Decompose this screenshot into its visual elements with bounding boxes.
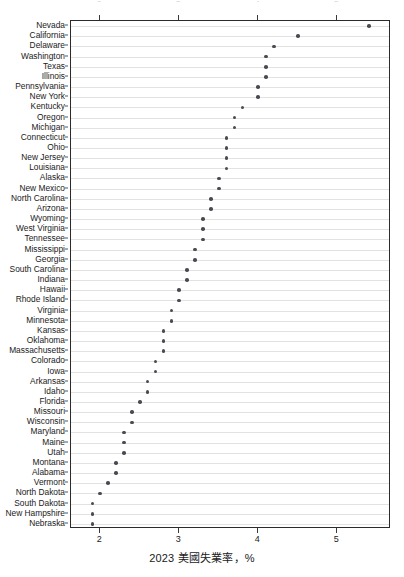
y-axis-label-iowa: Iowa [47, 366, 65, 375]
x-axis-tick [336, 528, 337, 533]
gridline [71, 128, 389, 129]
y-axis-label-idaho: Idaho [44, 386, 65, 395]
y-axis-label-north-dakota: North Dakota [16, 488, 65, 497]
y-axis-label-delaware: Delaware [30, 41, 65, 50]
data-point [177, 299, 181, 303]
y-axis-label-alabama: Alabama [32, 468, 65, 477]
data-point [193, 258, 197, 262]
x-axis-tick [178, 528, 179, 533]
y-axis-label-california: California [30, 31, 65, 40]
gridline [71, 260, 389, 261]
gridline [71, 341, 389, 342]
x-axis-tick [257, 528, 258, 533]
gridline [71, 392, 389, 393]
y-axis-label-new-jersey: New Jersey [21, 153, 65, 162]
data-point [193, 248, 197, 252]
y-axis-tick [65, 147, 68, 148]
y-axis-tick [65, 401, 68, 402]
data-point [146, 390, 150, 394]
gridline [71, 351, 389, 352]
y-axis-label-montana: Montana [32, 457, 65, 466]
gridline [71, 331, 389, 332]
y-axis-label-tennessee: Tennessee [24, 234, 65, 243]
gridline [71, 77, 389, 78]
data-point [146, 380, 150, 384]
y-axis-label-rhode-island: Rhode Island [16, 295, 65, 304]
data-point [272, 45, 276, 49]
data-point [201, 217, 205, 221]
y-axis-tick [65, 157, 68, 158]
data-point [91, 502, 95, 506]
data-point [264, 75, 268, 79]
x-axis-tick-label: 2 [97, 534, 102, 544]
gridline [71, 199, 389, 200]
gridline [71, 178, 389, 179]
y-axis-tick [65, 522, 68, 523]
data-point [122, 441, 126, 445]
y-axis-tick [65, 492, 68, 493]
gridline [71, 524, 389, 525]
data-point [209, 197, 213, 201]
y-axis-label-colorado: Colorado [31, 356, 65, 365]
data-point [367, 24, 371, 28]
y-axis-tick [65, 35, 68, 36]
y-axis-label-nevada: Nevada [36, 21, 65, 30]
y-axis-label-hawaii: Hawaii [40, 285, 65, 294]
y-axis-label-oregon: Oregon [37, 112, 65, 121]
y-axis-label-arizona: Arizona [37, 203, 65, 212]
data-point [130, 410, 134, 414]
gridline [71, 26, 389, 27]
y-axis-tick [65, 228, 68, 229]
y-axis-label-florida: Florida [39, 397, 65, 406]
y-axis-label-indiana: Indiana [38, 275, 65, 284]
gridline [71, 168, 389, 169]
x-axis-tick-label-top-clipped: 5 [334, 0, 339, 2]
gridline [71, 504, 389, 505]
y-axis-label-texas: Texas [43, 61, 65, 70]
y-axis-tick [65, 431, 68, 432]
gridline [71, 311, 389, 312]
gridline [71, 463, 389, 464]
y-axis-tick [65, 65, 68, 66]
data-point [217, 177, 221, 181]
gridline [71, 250, 389, 251]
y-axis-tick [65, 482, 68, 483]
data-point [264, 55, 268, 59]
gridline [71, 229, 389, 230]
data-point [264, 65, 268, 69]
gridline [71, 209, 389, 210]
data-point [296, 34, 300, 38]
y-axis-label-new-hampshire: New Hampshire [5, 508, 65, 517]
data-point [162, 329, 166, 333]
data-point [256, 95, 260, 99]
x-axis-tick-label: 3 [176, 534, 181, 544]
y-axis-tick [65, 329, 68, 330]
y-axis-tick [65, 380, 68, 381]
gridline [71, 422, 389, 423]
gridline [71, 361, 389, 362]
y-axis-label-maine: Maine [42, 437, 65, 446]
y-axis-tick [65, 451, 68, 452]
y-axis-tick [65, 370, 68, 371]
x-axis-tick-label-top-clipped: 2 [97, 0, 102, 2]
y-axis-tick [65, 75, 68, 76]
y-axis-label-nebraska: Nebraska [29, 518, 65, 527]
y-axis-tick [65, 45, 68, 46]
y-axis-label-connecticut: Connecticut [21, 132, 65, 141]
data-point [138, 400, 142, 404]
y-axis-tick [65, 106, 68, 107]
y-axis-tick [65, 207, 68, 208]
gridline [71, 239, 389, 240]
data-point [114, 461, 118, 465]
y-axis-label-new-york: New York [30, 92, 65, 101]
y-axis-tick [65, 340, 68, 341]
gridline [71, 107, 389, 108]
data-point [209, 207, 213, 211]
y-axis-label-mississippi: Mississippi [25, 244, 66, 253]
gridline [71, 483, 389, 484]
data-point [225, 136, 229, 140]
y-axis-label-kansas: Kansas [37, 325, 65, 334]
y-axis-label-missouri: Missouri [34, 407, 65, 416]
y-axis-tick [65, 167, 68, 168]
data-point [122, 451, 126, 455]
